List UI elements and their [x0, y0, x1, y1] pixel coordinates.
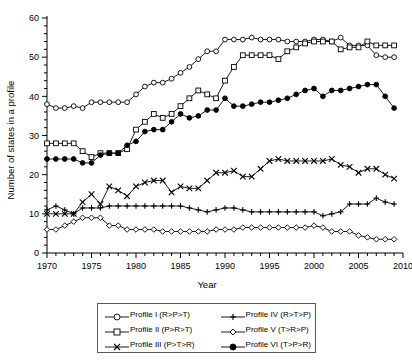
data-point-open-square [214, 96, 219, 101]
legend-label: Profile I (R>P>T) [130, 309, 190, 321]
data-point-filled-circle [267, 100, 272, 105]
data-point-open-circle [54, 106, 59, 111]
data-point-plus [258, 209, 264, 215]
legend-entry[interactable]: Profile IV (R>T>P) [220, 308, 315, 321]
data-point-open-circle [267, 37, 272, 42]
x-axis-title: Year [197, 279, 216, 290]
data-point-open-circle [240, 37, 245, 42]
data-point-open-square [196, 88, 201, 93]
data-point-open-circle [232, 37, 237, 42]
data-point-open-circle [107, 100, 112, 105]
data-point-filled-circle [187, 115, 192, 120]
y-tick-label: 10 [29, 209, 39, 219]
x-tick-label: 2005 [348, 261, 368, 271]
data-point-open-circle [205, 49, 210, 54]
data-point-plus [391, 201, 397, 207]
legend-marker-plus [220, 311, 246, 323]
data-point-plus [267, 209, 273, 215]
data-point-open-square [54, 141, 59, 146]
series-profile-vi-t-p-r- [45, 82, 397, 165]
data-point-filled-circle [276, 98, 281, 103]
series-profile-i-r-p-t- [45, 35, 397, 110]
data-point-open-diamond [196, 229, 202, 235]
data-point-open-square [143, 119, 148, 124]
data-point-open-square [294, 45, 299, 50]
y-tick-label: 30 [29, 131, 39, 141]
legend-column-right: Profile IV (R>T>P)Profile V (T>R>P)Profi… [220, 308, 315, 352]
data-point-open-square [347, 45, 352, 50]
data-point-filled-circle [169, 119, 174, 124]
data-point-x-cross [80, 199, 86, 205]
data-point-open-circle [160, 80, 165, 85]
data-point-filled-circle [214, 108, 219, 113]
legend-entry[interactable]: Profile V (T>R>P) [220, 323, 315, 336]
data-point-filled-circle [178, 112, 183, 117]
data-point-filled-circle [374, 82, 379, 87]
data-point-filled-circle [54, 157, 59, 162]
legend-entry[interactable]: Profile III (P>T>R) [104, 338, 220, 351]
data-point-open-circle [114, 314, 120, 320]
y-axis-title: Number of states in a profile [5, 81, 16, 200]
data-point-plus [178, 203, 184, 209]
data-point-filled-circle [232, 104, 237, 109]
data-point-open-diamond [187, 229, 193, 235]
data-point-open-diamond [204, 229, 210, 235]
data-point-open-diamond [169, 229, 175, 235]
data-point-open-circle [392, 55, 397, 60]
data-point-plus [276, 209, 282, 215]
data-point-filled-circle [62, 157, 67, 162]
legend-label: Profile V (T>R>P) [246, 324, 309, 336]
data-point-open-circle [89, 100, 94, 105]
data-point-open-square [338, 47, 343, 52]
data-point-plus [365, 201, 371, 207]
data-point-open-square [45, 141, 50, 146]
data-point-open-diamond [329, 229, 335, 235]
data-point-open-square [240, 53, 245, 58]
data-point-open-square [151, 112, 156, 117]
data-point-open-square [134, 127, 139, 132]
data-point-open-square [312, 39, 317, 44]
legend-entry[interactable]: Profile I (R>P>T) [104, 308, 220, 321]
data-point-open-diamond [151, 227, 157, 233]
data-point-filled-circle [196, 114, 201, 119]
data-point-open-circle [223, 37, 228, 42]
data-point-open-diamond [213, 227, 219, 233]
x-axis-ticks: 197019751980198519901995200020052010 [37, 253, 412, 271]
data-point-plus [89, 205, 95, 211]
data-point-open-diamond [80, 215, 86, 221]
y-tick-label: 20 [29, 170, 39, 180]
x-tick-label: 2010 [393, 261, 412, 271]
data-point-open-diamond [374, 236, 380, 242]
data-point-open-square [232, 65, 237, 70]
data-point-open-square [169, 112, 174, 117]
data-point-open-circle [187, 65, 192, 70]
x-tick-label: 1990 [215, 261, 235, 271]
data-point-filled-circle [116, 151, 121, 156]
data-point-open-square [114, 329, 120, 335]
y-tick-label: 40 [29, 92, 39, 102]
data-point-open-diamond [285, 225, 291, 231]
data-point-x-cross [391, 176, 397, 182]
legend-marker-open-circle [104, 311, 130, 323]
data-point-open-circle [285, 39, 290, 44]
data-point-filled-circle [312, 86, 317, 91]
legend-label: Profile IV (R>T>P) [246, 309, 311, 321]
data-point-filled-circle [321, 94, 326, 99]
legend-symbol [104, 339, 130, 351]
legend-marker-filled-circle [220, 341, 246, 353]
data-point-open-diamond [293, 225, 299, 231]
legend-marker-open-square [104, 326, 130, 338]
data-point-plus [169, 203, 175, 209]
data-point-plus [231, 205, 237, 211]
data-point-open-square [80, 149, 85, 154]
data-point-filled-circle [151, 127, 156, 132]
data-point-plus [249, 209, 255, 215]
legend-label: Profile III (P>T>R) [130, 339, 194, 351]
legend-entry[interactable]: Profile II (P>R>T) [104, 323, 220, 336]
data-point-open-square [267, 53, 272, 58]
legend-entry[interactable]: Profile VI (T>P>R) [220, 338, 315, 351]
data-point-open-diamond [347, 229, 353, 235]
data-point-open-circle [80, 106, 85, 111]
data-point-plus [142, 203, 148, 209]
data-point-plus [374, 195, 380, 201]
